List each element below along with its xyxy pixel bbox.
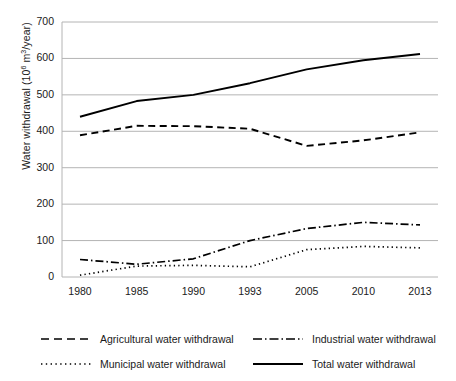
gridlines <box>62 22 438 277</box>
x-axis-tick-label: 1985 <box>112 285 162 297</box>
series-line <box>80 54 420 117</box>
legend-row: Agricultural water withdrawal Industrial… <box>40 326 440 351</box>
series-line <box>80 126 420 146</box>
y-axis-tick-label: 200 <box>20 198 54 209</box>
legend-item-municipal[interactable]: Municipal water withdrawal <box>40 358 252 370</box>
y-axis-tick-label: 0 <box>20 271 54 282</box>
legend-swatch-municipal <box>40 358 92 370</box>
legend-item-industrial[interactable]: Industrial water withdrawal <box>252 333 440 345</box>
y-axis-tick-label: 400 <box>20 125 54 136</box>
line-chart: Water withdrawal (106 m3/year) 010020030… <box>0 0 456 381</box>
data-series-layer <box>80 54 420 275</box>
x-axis-tick-label: 2010 <box>338 285 388 297</box>
x-axis-tick-label: 2013 <box>395 285 445 297</box>
series-line <box>80 222 420 264</box>
legend-item-agricultural[interactable]: Agricultural water withdrawal <box>40 333 252 345</box>
legend-label-industrial: Industrial water withdrawal <box>312 333 436 345</box>
legend-label-total: Total water withdrawal <box>312 358 415 370</box>
legend-swatch-industrial <box>252 333 304 345</box>
legend-label-agricultural: Agricultural water withdrawal <box>100 333 234 345</box>
legend: Agricultural water withdrawal Industrial… <box>40 326 440 376</box>
legend-label-municipal: Municipal water withdrawal <box>100 358 225 370</box>
x-axis-tick-label: 2005 <box>282 285 332 297</box>
x-axis-tick-label: 1990 <box>168 285 218 297</box>
x-axis-tick-label: 1993 <box>225 285 275 297</box>
legend-swatch-agricultural <box>40 333 92 345</box>
y-axis-tick-label: 100 <box>20 235 54 246</box>
plot-area <box>0 0 456 381</box>
legend-swatch-total <box>252 358 304 370</box>
legend-item-total[interactable]: Total water withdrawal <box>252 358 440 370</box>
y-axis-tick-label: 600 <box>20 52 54 63</box>
legend-row: Municipal water withdrawal Total water w… <box>40 351 440 376</box>
y-axis-tick-label: 300 <box>20 162 54 173</box>
x-axis-tick-label: 1980 <box>55 285 105 297</box>
y-axis-tick-label: 500 <box>20 89 54 100</box>
y-axis-tick-label: 700 <box>20 16 54 27</box>
series-line <box>80 246 420 275</box>
